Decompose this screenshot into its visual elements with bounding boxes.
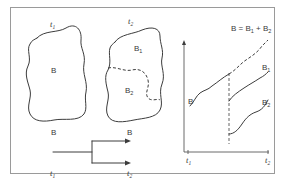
region-b-split-t2: t2 B1 B2: [106, 16, 164, 122]
region-b-t1: t1 B: [26, 19, 86, 121]
x-tick-label-t2: t2: [265, 155, 270, 166]
label-region-b: B: [51, 66, 56, 75]
label-t2-middle: t2: [128, 16, 133, 27]
branching-diagram: t1 B t2 B1 B2 B B t1 t2: [0, 0, 283, 188]
arrowhead-upper-icon: [125, 139, 131, 144]
label-sum-equation: B = B1 + B2: [231, 24, 271, 34]
region-b-outline: [26, 26, 86, 121]
split-boundary: [108, 68, 160, 100]
branch-end-time: t2: [127, 168, 132, 179]
branch-diagram: B B t1 t2: [50, 128, 132, 179]
region-split-outline: [106, 28, 164, 122]
label-curve-b1: B1: [262, 63, 270, 73]
label-region-b1: B1: [134, 44, 142, 54]
y-axis-arrow-icon: [182, 40, 186, 45]
branch-target-label: B: [127, 128, 132, 137]
label-t1-left: t1: [50, 19, 55, 30]
label-curve-b: B: [188, 97, 193, 106]
time-graph: B = B1 + B2 B B1 B2 t1 t2: [182, 24, 271, 166]
label-region-b2: B2: [125, 86, 133, 96]
curve-b1: [229, 72, 268, 101]
arrowhead-lower-icon: [125, 161, 131, 166]
x-tick-label-t1: t1: [186, 155, 191, 166]
branch-start-time: t1: [50, 168, 55, 179]
branch-source-label: B: [51, 128, 56, 137]
curve-b: [190, 74, 229, 106]
label-curve-b2: B2: [262, 98, 270, 108]
